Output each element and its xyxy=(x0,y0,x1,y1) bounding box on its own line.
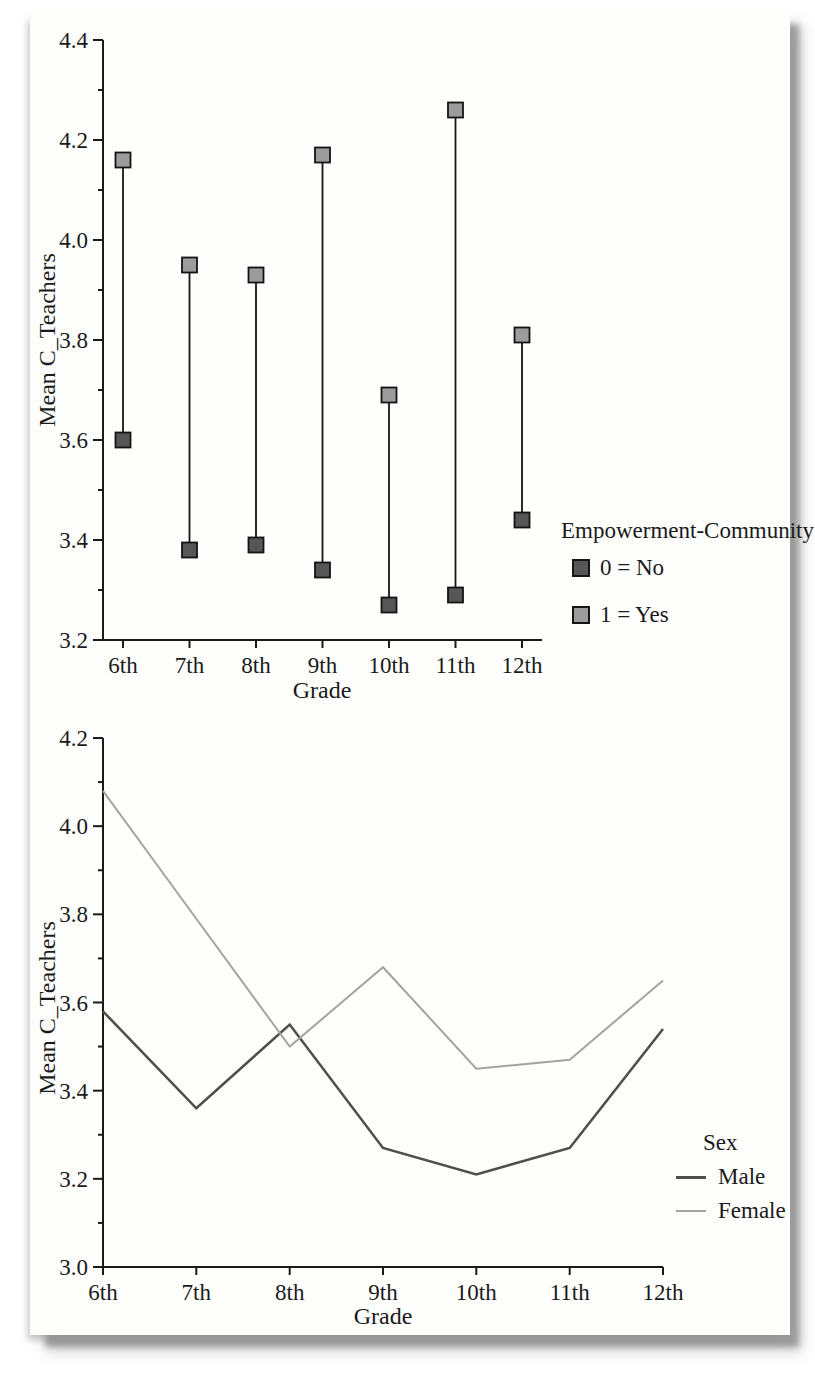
y-tick-label: 4.0 xyxy=(59,814,88,839)
yes-marker xyxy=(448,103,463,118)
legend-item-male: Male xyxy=(676,1164,765,1190)
x-tick-label: 6th xyxy=(88,1280,118,1305)
legend-item-yes: 1 = Yes xyxy=(572,602,669,628)
y-tick-label: 3.2 xyxy=(59,1167,88,1192)
x-tick-label: 9th xyxy=(308,653,338,678)
x-tick-label: 6th xyxy=(108,653,138,678)
legend-item-no-label: 0 = No xyxy=(600,555,664,581)
y-tick-label: 3.8 xyxy=(59,328,88,353)
x-tick-label: 12th xyxy=(502,653,543,678)
legend-item-female-label: Female xyxy=(718,1198,786,1224)
empowerment-legend-title: Empowerment-Community xyxy=(561,518,814,544)
x-tick-label: 10th xyxy=(369,653,410,678)
dark-square-swatch-icon xyxy=(572,559,590,577)
legend-item-yes-label: 1 = Yes xyxy=(600,602,669,628)
y-tick-label: 3.4 xyxy=(59,528,88,553)
no-marker xyxy=(249,538,264,553)
no-marker xyxy=(515,513,530,528)
y-tick-label: 4.2 xyxy=(59,128,88,153)
x-tick-label: 11th xyxy=(435,653,476,678)
bottom-chart: 4.24.03.83.63.43.23.06th7th8th9th10th11t… xyxy=(59,726,684,1305)
y-tick-label: 3.6 xyxy=(59,428,88,453)
bottom-chart-x-axis-title: Grade xyxy=(283,1303,483,1331)
no-marker xyxy=(448,588,463,603)
female-line-swatch-icon xyxy=(676,1210,706,1212)
top-chart: 4.44.24.03.83.63.43.26th7th8th9th10th11t… xyxy=(59,28,543,678)
yes-marker xyxy=(249,268,264,283)
y-tick-label: 4.2 xyxy=(59,726,88,751)
top-chart-x-axis-title: Grade xyxy=(222,677,422,705)
y-tick-label: 3.0 xyxy=(59,1255,88,1280)
yes-marker xyxy=(515,328,530,343)
top-chart-y-axis-title: Mean C_Teachers xyxy=(34,190,62,490)
x-tick-label: 8th xyxy=(241,653,271,678)
x-tick-label: 8th xyxy=(275,1280,305,1305)
male-line xyxy=(103,1011,663,1174)
x-tick-label: 11th xyxy=(550,1280,591,1305)
yes-marker xyxy=(182,258,197,273)
legend-item-male-label: Male xyxy=(718,1164,765,1190)
y-tick-label: 3.8 xyxy=(59,902,88,927)
legend-item-female: Female xyxy=(676,1198,786,1224)
x-tick-label: 12th xyxy=(643,1280,684,1305)
legend-item-no: 0 = No xyxy=(572,555,664,581)
x-tick-label: 10th xyxy=(456,1280,497,1305)
scanned-figure-page: 4.44.24.03.83.63.43.26th7th8th9th10th11t… xyxy=(0,0,815,1373)
x-tick-label: 7th xyxy=(182,1280,212,1305)
y-tick-label: 4.0 xyxy=(59,228,88,253)
yes-marker xyxy=(382,388,397,403)
y-tick-label: 4.4 xyxy=(59,28,88,53)
sex-legend-title: Sex xyxy=(703,1130,738,1156)
no-marker xyxy=(382,598,397,613)
light-square-swatch-icon xyxy=(572,606,590,624)
no-marker xyxy=(182,543,197,558)
bottom-chart-y-axis-title: Mean C_Teachers xyxy=(34,858,62,1158)
no-marker xyxy=(315,563,330,578)
x-tick-label: 7th xyxy=(175,653,205,678)
y-tick-label: 3.2 xyxy=(59,628,88,653)
male-line-swatch-icon xyxy=(676,1176,706,1179)
no-marker xyxy=(116,433,131,448)
yes-marker xyxy=(315,148,330,163)
female-line xyxy=(103,791,663,1069)
y-tick-label: 3.4 xyxy=(59,1079,88,1104)
x-tick-label: 9th xyxy=(368,1280,398,1305)
y-tick-label: 3.6 xyxy=(59,991,88,1016)
yes-marker xyxy=(116,153,131,168)
